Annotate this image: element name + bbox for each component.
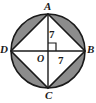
vertex-label-a: A	[44, 1, 51, 12]
center-label-o: O	[37, 54, 44, 64]
vertex-label-b: B	[87, 44, 94, 55]
measure-label-radius-ob: 7	[58, 55, 64, 66]
vertex-label-c: C	[45, 90, 52, 101]
geometry-figure: A B C D O 7 7	[0, 0, 96, 103]
measure-label-radius-oa: 7	[49, 29, 55, 40]
geometry-diagram	[0, 0, 96, 103]
vertex-label-d: D	[0, 44, 8, 55]
